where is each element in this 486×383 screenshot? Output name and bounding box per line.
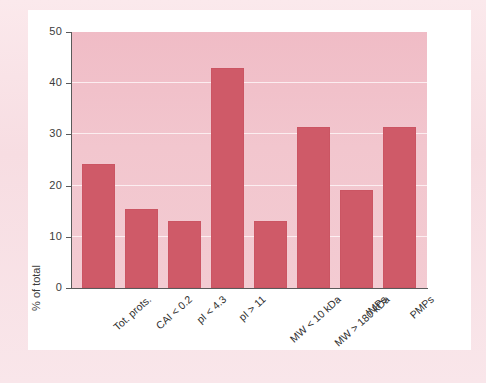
bar-6[interactable] [340,190,373,288]
bar-slot [249,32,292,288]
x-axis-label-1: CAI < 0.2 [153,293,194,331]
y-tick-50: 50 [66,32,71,33]
x-axis-label-2: pI < 4.3 [194,293,228,326]
y-axis-title-wrapper: % of total [42,160,43,161]
y-axis-title: % of total [30,265,42,311]
y-tick-30: 30 [66,134,71,135]
bar-slot [378,32,421,288]
y-tick-0: 0 [66,288,71,289]
y-tick-label: 30 [49,127,62,139]
plot-area [71,32,427,288]
y-tick-mark [66,186,71,187]
bar-0[interactable] [82,164,115,288]
y-axis-line [71,32,72,289]
y-tick-10: 10 [66,237,71,238]
y-tick-mark [66,32,71,33]
x-axis-label-3: pI > 11 [236,293,268,323]
x-axis-labels: Tot. prots.CAI < 0.2pI < 4.3pI > 11MW < … [71,291,427,349]
y-tick-20: 20 [66,186,71,187]
bar-3[interactable] [211,68,244,288]
bar-slot [163,32,206,288]
y-tick-mark [66,237,71,238]
figure-card: % of total 01020304050 Tot. prots.CAI < … [28,10,471,350]
bar-series [71,32,427,288]
y-tick-label: 0 [56,281,62,293]
bar-slot [77,32,120,288]
y-tick-label: 50 [49,25,62,37]
y-tick-label: 10 [49,230,62,242]
x-axis-label-7: PMPs [407,293,436,321]
bar-2[interactable] [168,221,201,288]
y-tick-label: 20 [49,179,62,191]
bar-4[interactable] [254,221,287,288]
bar-1[interactable] [125,209,158,288]
y-tick-label: 40 [49,76,62,88]
y-tick-mark [66,134,71,135]
bar-chart-figure: % of total 01020304050 Tot. prots.CAI < … [28,10,471,350]
x-axis-label-0: Tot. prots. [110,293,152,333]
y-tick-mark [66,288,71,289]
y-tick-mark [66,83,71,84]
bar-7[interactable] [383,127,416,288]
bar-slot [335,32,378,288]
page-background: % of total 01020304050 Tot. prots.CAI < … [0,0,486,383]
bar-5[interactable] [297,127,330,288]
y-tick-40: 40 [66,83,71,84]
bar-slot [120,32,163,288]
bar-slot [206,32,249,288]
x-axis-line [71,288,428,289]
bar-slot [292,32,335,288]
